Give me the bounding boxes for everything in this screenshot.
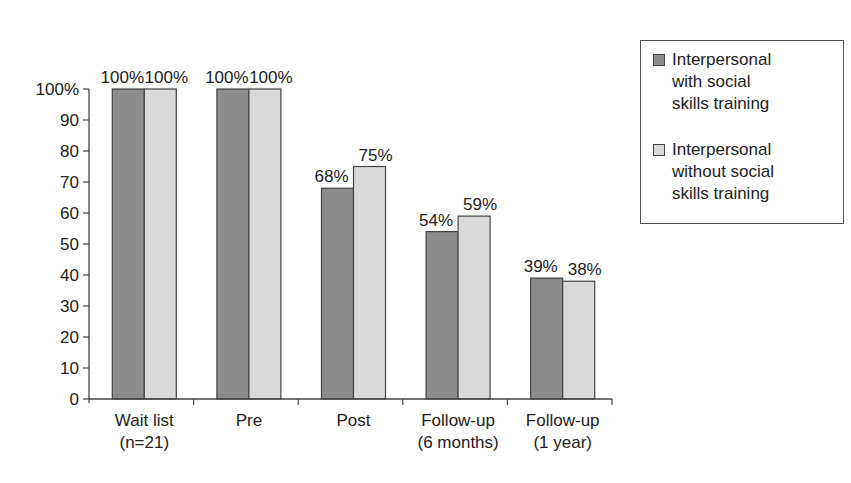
bar xyxy=(112,89,144,399)
category-label: (1 year) xyxy=(533,433,592,452)
bar xyxy=(322,188,354,399)
bar xyxy=(249,89,281,399)
category-label: Wait list xyxy=(115,411,174,430)
value-label: 100% xyxy=(145,68,188,87)
y-tick-label: 40 xyxy=(60,266,79,285)
value-label: 100% xyxy=(205,68,248,87)
legend-swatch-dark xyxy=(653,54,665,66)
y-tick-label: 30 xyxy=(60,297,79,316)
value-label: 54% xyxy=(419,211,453,230)
category-label: (6 months) xyxy=(417,433,498,452)
y-tick-label: 50 xyxy=(60,235,79,254)
bar xyxy=(426,232,458,399)
value-label: 39% xyxy=(524,257,558,276)
category-label: Follow-up xyxy=(421,411,495,430)
bar xyxy=(217,89,249,399)
bar xyxy=(531,278,563,399)
y-tick-label: 60 xyxy=(60,204,79,223)
legend: Interpersonal with social skills trainin… xyxy=(640,40,844,224)
y-tick-label: 100% xyxy=(36,80,79,99)
legend-label-line: skills training xyxy=(672,93,832,115)
y-tick-label: 80 xyxy=(60,142,79,161)
legend-label-line: Interpersonal xyxy=(672,49,832,71)
legend-item-without-training: Interpersonal without social skills trai… xyxy=(653,139,832,205)
value-label: 68% xyxy=(314,167,348,186)
legend-label-line: without social xyxy=(672,161,832,183)
legend-label-line: with social xyxy=(672,71,832,93)
value-label: 75% xyxy=(358,146,392,165)
y-tick-label: 20 xyxy=(60,328,79,347)
category-label: Follow-up xyxy=(526,411,600,430)
legend-label-line: skills training xyxy=(672,183,832,205)
legend-swatch-light xyxy=(653,144,665,156)
category-label: Post xyxy=(336,411,370,430)
y-tick-label: 10 xyxy=(60,359,79,378)
y-tick-label: 0 xyxy=(70,390,79,409)
y-tick-label: 90 xyxy=(60,111,79,130)
value-label: 100% xyxy=(101,68,144,87)
bar xyxy=(563,281,595,399)
category-label: Pre xyxy=(236,411,262,430)
legend-label-line: Interpersonal xyxy=(672,139,832,161)
bar xyxy=(144,89,176,399)
bars-layer xyxy=(112,89,594,399)
value-label: 38% xyxy=(568,260,602,279)
bar xyxy=(458,216,490,399)
bar xyxy=(354,167,386,400)
value-label: 100% xyxy=(249,68,292,87)
value-label: 59% xyxy=(463,195,497,214)
y-tick-label: 70 xyxy=(60,173,79,192)
legend-item-with-training: Interpersonal with social skills trainin… xyxy=(653,49,832,115)
category-label: (n=21) xyxy=(119,433,169,452)
